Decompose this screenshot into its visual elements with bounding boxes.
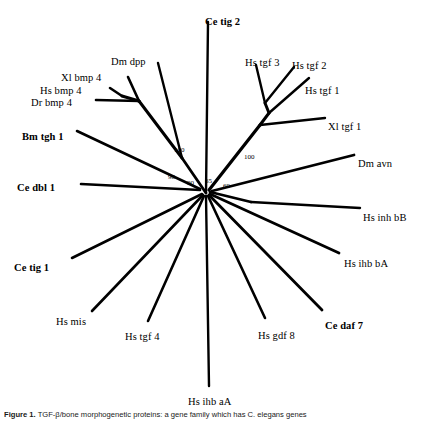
taxon-label-hs-inh-bb: Hs inh bB bbox=[363, 212, 407, 223]
tree-branch bbox=[96, 100, 139, 101]
bootstrap-support-value: 90 bbox=[187, 179, 194, 187]
bootstrap-support-value: 69 bbox=[223, 182, 230, 190]
phylogenetic-tree-figure: Ce tig 2Dm dppXl bmp 4Hs bmp 4Dr bmp 4Bm… bbox=[0, 0, 432, 423]
bootstrap-support-value: 100 bbox=[244, 153, 255, 161]
figure-caption: Figure 1. TGF-β/bone morphogenetic prote… bbox=[4, 410, 428, 419]
taxon-label-ce-tig-2: Ce tig 2 bbox=[205, 16, 240, 27]
taxon-label-ce-daf-7: Ce daf 7 bbox=[325, 320, 363, 331]
taxon-label-hs-tgf-1: Hs tgf 1 bbox=[305, 85, 340, 96]
bootstrap-support-value: 65 bbox=[205, 177, 212, 185]
taxon-label-hs-ihb-aa: Hs ihb aA bbox=[188, 396, 231, 407]
taxon-label-hs-tgf-2: Hs tgf 2 bbox=[292, 60, 327, 71]
taxon-label-hs-tgf-3: Hs tgf 3 bbox=[245, 57, 280, 68]
taxon-label-hs-tgf-4: Hs tgf 4 bbox=[125, 331, 160, 342]
taxon-label-hs-gdf-8: Hs gdf 8 bbox=[258, 330, 295, 341]
taxon-label-dm-dpp: Dm dpp bbox=[111, 56, 146, 67]
taxon-label-xl-tgf-1: Xl tgf 1 bbox=[328, 121, 361, 132]
taxon-label-xl-bmp-4: Xl bmp 4 bbox=[61, 72, 101, 83]
taxon-label-dr-bmp-4: Dr bmp 4 bbox=[31, 97, 72, 108]
taxon-label-dm-avn: Dm avn bbox=[358, 158, 392, 169]
bootstrap-support-value: 98 bbox=[168, 173, 175, 181]
figure-caption-label: Figure 1. bbox=[4, 410, 36, 419]
taxon-label-hs-mis: Hs mis bbox=[56, 316, 86, 327]
taxon-label-bm-tgh-1: Bm tgh 1 bbox=[22, 131, 64, 142]
taxon-label-ce-dbl-1: Ce dbl 1 bbox=[17, 182, 55, 193]
taxon-label-hs-ihb-ba: Hs ihb bA bbox=[344, 258, 388, 269]
bootstrap-support-value: 100 bbox=[174, 146, 185, 154]
figure-caption-text: TGF-β/bone morphogenetic proteins: a gen… bbox=[38, 410, 307, 419]
taxon-label-ce-tig-1: Ce tig 1 bbox=[14, 262, 49, 273]
taxon-label-hs-bmp-4: Hs bmp 4 bbox=[40, 85, 82, 96]
